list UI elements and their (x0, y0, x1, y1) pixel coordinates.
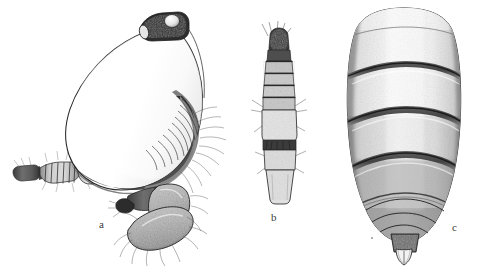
figure-a-group (13, 12, 226, 266)
figure-a-ventral-appendages (108, 184, 208, 266)
figure-b-group (251, 21, 307, 204)
figure-c-group (340, 0, 470, 265)
illustration-plate: a b c (0, 0, 483, 266)
antenna-distal-segment (13, 165, 40, 181)
figure-label-c: c (452, 221, 457, 233)
figure-b-dark-ring (263, 140, 296, 150)
figure-label-a: a (99, 218, 104, 230)
figure-a-eye (165, 15, 180, 28)
plate-artwork (0, 0, 483, 266)
figure-b-ringed-segments (263, 61, 295, 110)
figure-label-b: b (271, 211, 277, 223)
figure-b-segment-2 (267, 50, 291, 62)
figure-c-segments (340, 0, 470, 250)
